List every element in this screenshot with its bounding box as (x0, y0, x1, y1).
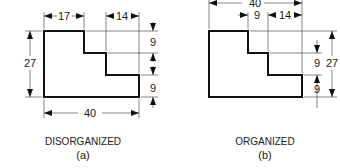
sublabel-b: (b) (205, 149, 325, 161)
dim-b-width: 40 (249, 0, 261, 9)
figure-a: 17 14 27 40 9 9 (24, 10, 158, 119)
dim-b-right-lower: 9 (314, 83, 320, 95)
dim-b-height: 27 (326, 57, 338, 69)
dim-a-height: 27 (24, 57, 36, 69)
dim-a-right-upper: 9 (150, 36, 156, 48)
dim-b-right-upper: 9 (314, 57, 320, 69)
dim-b-step-a: 9 (254, 9, 260, 21)
caption-b: ORGANIZED (205, 136, 325, 147)
dim-a-width: 40 (84, 107, 96, 119)
part-outline-a (44, 31, 139, 97)
caption-a: DISORGANIZED (23, 136, 143, 147)
part-outline-b (209, 31, 302, 97)
sublabel-a: (a) (23, 149, 143, 161)
dim-a-right-lower: 9 (150, 82, 156, 94)
dim-a-top-right: 14 (116, 10, 128, 22)
dim-b-step-b: 14 (279, 9, 291, 21)
dim-a-top-left: 17 (58, 10, 70, 22)
figure-b: 40 9 14 9 9 27 (209, 0, 338, 108)
